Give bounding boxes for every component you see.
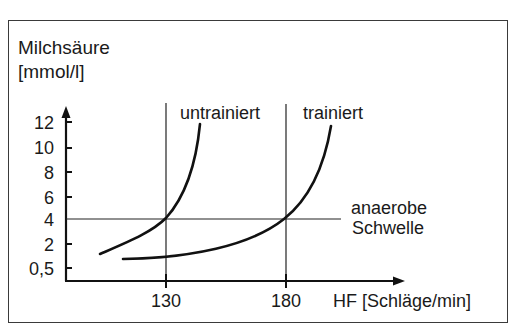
- label-trainiert: trainiert: [303, 104, 363, 122]
- y-axis-label-line2: [mmol/l]: [18, 62, 85, 81]
- ytick-4: 4: [14, 211, 54, 229]
- ytick-12: 12: [14, 114, 54, 132]
- ytick-10: 10: [14, 139, 54, 157]
- xtick-180: 180: [261, 292, 311, 310]
- x-axis-arrow-icon: [393, 277, 405, 286]
- curve-trainiert: [123, 126, 331, 259]
- threshold-label-line1: anaerobe: [351, 199, 427, 217]
- label-untrainiert: untrainiert: [180, 104, 260, 122]
- ytick-6: 6: [14, 189, 54, 207]
- x-axis-label: HF [Schläge/min]: [333, 292, 471, 310]
- threshold-label-line2: Schwelle: [352, 219, 424, 237]
- curve-untrainiert: [100, 124, 200, 254]
- ytick-8: 8: [14, 164, 54, 182]
- y-axis-arrow-icon: [62, 106, 71, 118]
- y-axis-label-line1: Milchsäure: [18, 38, 110, 57]
- xtick-130: 130: [141, 292, 191, 310]
- ytick-0-5: 0,5: [14, 260, 54, 278]
- ytick-2: 2: [14, 236, 54, 254]
